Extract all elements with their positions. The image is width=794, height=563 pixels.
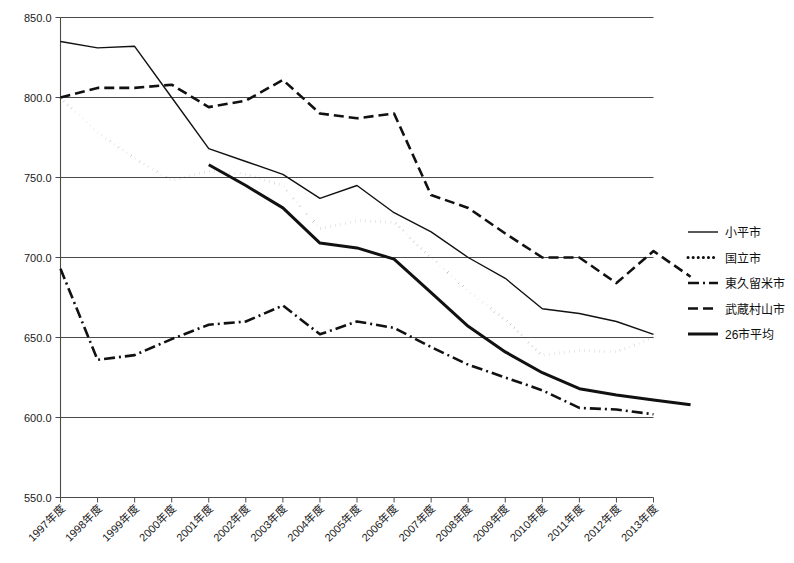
y-axis-tick-label: 600.0 — [24, 412, 52, 424]
legend-label-5: 26市平均 — [725, 327, 774, 342]
line-chart: 850.0800.0750.0700.0650.0600.0550.0 1997… — [0, 0, 794, 563]
legend-label-3: 東久留米市 — [725, 276, 785, 291]
x-tick-marks-group — [61, 498, 654, 503]
x-axis-tick-label: 2004年度 — [284, 502, 326, 544]
x-axis-tick-label: 2009年度 — [470, 502, 512, 544]
x-axis-tick-labels-group: 1997年度1998年度1999年度2000年度2001年度2002年度2003… — [25, 502, 660, 544]
y-axis-tick-label: 800.0 — [24, 92, 52, 104]
chart-canvas: 850.0800.0750.0700.0650.0600.0550.0 1997… — [0, 0, 794, 563]
x-axis-tick-label: 2012年度 — [581, 502, 623, 544]
y-axis-tick-label: 700.0 — [24, 252, 52, 264]
x-axis-tick-label: 2008年度 — [433, 502, 475, 544]
y-axis-tick-label: 750.0 — [24, 172, 52, 184]
series-line-2 — [61, 98, 654, 356]
x-axis-tick-label: 2001年度 — [173, 502, 215, 544]
legend-label-4: 武蔵村山市 — [725, 302, 785, 317]
x-axis-tick-label: 1999年度 — [99, 502, 141, 544]
gridlines-group — [61, 18, 654, 418]
y-axis-tick-label: 550.0 — [24, 492, 52, 504]
x-axis-tick-label: 2002年度 — [210, 502, 252, 544]
y-axis-tick-label: 650.0 — [24, 332, 52, 344]
x-axis-tick-label: 2011年度 — [544, 502, 585, 543]
y-axis-tick-label: 850.0 — [24, 12, 52, 24]
x-axis-tick-label: 1997年度 — [25, 502, 67, 544]
x-axis-tick-label: 2006年度 — [358, 502, 400, 544]
legend: 小平市国立市東久留米市武蔵村山市26市平均 — [688, 225, 785, 342]
x-axis-tick-label: 2003年度 — [247, 502, 289, 544]
x-axis-tick-label: 1998年度 — [62, 502, 104, 544]
x-axis-tick-label: 2013年度 — [618, 502, 660, 544]
series-line-3 — [61, 269, 654, 415]
legend-label-1: 小平市 — [725, 225, 761, 240]
x-axis-tick-label: 2007年度 — [395, 502, 437, 544]
x-axis-tick-label: 2005年度 — [321, 502, 363, 544]
y-tick-marks-group — [56, 18, 61, 498]
x-axis-tick-label: 2000年度 — [136, 502, 178, 544]
legend-label-2: 国立市 — [725, 251, 761, 266]
y-axis-tick-labels-group: 850.0800.0750.0700.0650.0600.0550.0 — [24, 12, 52, 504]
x-axis-tick-label: 2010年度 — [507, 502, 549, 544]
